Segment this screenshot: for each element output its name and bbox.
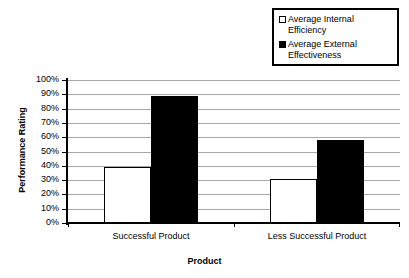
y-axis-tick-label: 90% — [19, 89, 59, 98]
plot-area — [68, 80, 400, 223]
x-axis-tick — [399, 222, 400, 227]
legend-item-external-effectiveness: Average External Effectiveness — [279, 39, 394, 60]
y-axis-tick — [62, 166, 67, 167]
y-axis-tick-label: 50% — [19, 147, 59, 156]
x-axis-tick — [68, 222, 69, 227]
y-axis-tick — [62, 137, 67, 138]
y-axis-tick — [62, 194, 67, 195]
x-axis-category-label: Successful Product — [68, 231, 234, 241]
x-axis-category-label: Less Successful Product — [234, 231, 400, 241]
y-axis-tick — [62, 109, 67, 110]
y-axis-tick-label: 40% — [19, 161, 59, 170]
y-axis-tick — [62, 152, 67, 153]
legend-swatch-white-square-icon — [279, 16, 286, 23]
chart-legend: Average Internal Efficiency Average Exte… — [272, 8, 399, 66]
legend-label-external-effectiveness: Average External Effectiveness — [288, 39, 357, 60]
gridline — [68, 94, 400, 95]
y-axis-tick-label: 100% — [19, 75, 59, 84]
gridline — [68, 109, 400, 110]
bar — [151, 96, 198, 223]
gridline — [68, 137, 400, 138]
y-axis-tick-label: 60% — [19, 132, 59, 141]
y-axis-tick-label: 10% — [19, 204, 59, 213]
legend-swatch-black-square-icon — [279, 41, 286, 48]
y-axis-tick — [62, 80, 67, 81]
bar — [270, 179, 317, 223]
x-axis-line — [66, 222, 400, 224]
gridline — [68, 123, 400, 124]
y-axis-tick-label: 30% — [19, 175, 59, 184]
x-axis-tick — [234, 222, 235, 227]
y-axis-tick-label: 20% — [19, 189, 59, 198]
y-axis-tick — [62, 209, 67, 210]
y-axis-tick-label: 70% — [19, 118, 59, 127]
y-axis-tick — [62, 180, 67, 181]
y-axis-tick-label: 80% — [19, 104, 59, 113]
y-axis-tick — [62, 123, 67, 124]
y-axis-tick — [62, 223, 67, 224]
bar-chart: Average Internal Efficiency Average Exte… — [0, 0, 409, 278]
bar — [104, 167, 151, 223]
bar — [317, 140, 364, 223]
y-axis-tick-label: 0% — [19, 218, 59, 227]
legend-item-internal-efficiency: Average Internal Efficiency — [279, 14, 394, 35]
y-axis-tick — [62, 94, 67, 95]
x-axis-title: Product — [0, 256, 409, 266]
gridline — [68, 80, 400, 81]
y-axis-tick-labels: 100%90%80%70%60%50%40%30%20%10%0% — [19, 0, 59, 278]
legend-label-internal-efficiency: Average Internal Efficiency — [288, 14, 354, 35]
